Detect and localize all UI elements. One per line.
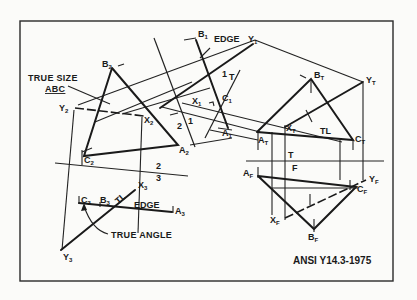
label-b-front: BF: [308, 232, 319, 243]
drawing-frame: [20, 21, 393, 281]
label-c-2: C2: [84, 155, 95, 166]
label-y-2: Y2: [59, 103, 69, 114]
label-y-3: Y3: [63, 252, 73, 263]
fold-label-2b: 2: [156, 161, 161, 171]
top-view: [257, 75, 363, 150]
fold-label-1: 1: [222, 69, 227, 79]
label-a-front: AF: [243, 168, 254, 179]
fold-label-1b: 1: [188, 116, 193, 126]
fold-label-3: 3: [156, 173, 161, 183]
label-c-3: C3: [81, 195, 92, 206]
label-y-1: Y1: [248, 34, 258, 45]
label-true-size: TRUE SIZE: [28, 73, 78, 83]
label-edge-1: EDGE: [214, 34, 240, 44]
descriptive-geometry-diagram: BT YT XT AT CT TL T F AF YF CF XF BF 1 T…: [0, 0, 417, 300]
label-a-3: A3: [175, 206, 186, 217]
label-b-2: B2: [102, 59, 113, 70]
label-c-front: CF: [357, 184, 368, 195]
label-b-3: B3: [100, 195, 111, 206]
label-tl-top: TL: [320, 126, 331, 136]
label-x-top: XT: [286, 123, 296, 134]
label-b-1: B1: [198, 29, 209, 40]
labels: BT YT XT AT CT TL T F AF YF CF XF BF 1 T…: [28, 29, 379, 266]
fold-label-2: 2: [177, 121, 182, 131]
aux-view-2: [75, 64, 178, 156]
label-true-angle: TRUE ANGLE: [111, 230, 172, 240]
label-true-size-abc: ABC: [45, 84, 66, 94]
label-x-front: XF: [270, 215, 280, 226]
aux-view-1: [160, 38, 253, 130]
label-y-front: YF: [369, 174, 379, 185]
fold-line-2-1: [154, 38, 195, 147]
label-y-top: YT: [366, 75, 376, 86]
label-x-1: X1: [192, 96, 202, 107]
label-a-2: A2: [179, 145, 190, 156]
true-angle-arc: [84, 206, 108, 234]
fold-label-t: T: [288, 150, 294, 160]
label-tl-3: TL: [113, 191, 128, 206]
fold-line-2-3: [55, 163, 188, 176]
ansi-standard-label: ANSI Y14.3-1975: [293, 255, 372, 266]
label-x-3: X3: [138, 180, 148, 191]
label-a-top: AT: [258, 135, 269, 146]
label-edge-3: EDGE: [134, 200, 160, 210]
label-c-top: CT: [355, 134, 366, 145]
fold-label-f: F: [292, 163, 298, 173]
fold-label-t2: T: [229, 72, 235, 82]
label-c-1: C1: [222, 93, 233, 104]
label-b-top: BT: [314, 70, 325, 81]
